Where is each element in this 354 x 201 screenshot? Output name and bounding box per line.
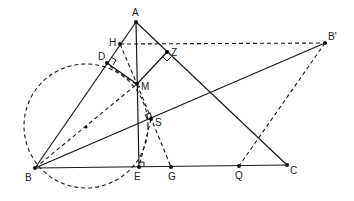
point-S xyxy=(149,117,153,121)
point-H xyxy=(118,42,122,46)
geometry-diagram: A B C B' H Z D M S E G Q xyxy=(0,0,354,201)
label-G: G xyxy=(168,171,176,182)
label-C: C xyxy=(290,165,297,176)
label-H: H xyxy=(109,37,116,48)
point-D xyxy=(105,61,109,65)
circle-center xyxy=(84,125,87,128)
point-G xyxy=(169,165,173,169)
point-E xyxy=(137,165,141,169)
segment-HB-prime xyxy=(120,43,325,44)
point-Z xyxy=(165,50,169,54)
point-B xyxy=(33,166,37,170)
point-Q xyxy=(237,164,241,168)
label-M: M xyxy=(141,81,149,92)
point-M xyxy=(135,82,139,86)
label-E: E xyxy=(134,171,141,182)
right-angle-Z xyxy=(163,57,171,61)
label-Q: Q xyxy=(235,170,243,181)
point-C xyxy=(285,163,289,167)
point-B-prime xyxy=(323,41,327,45)
label-S: S xyxy=(155,117,162,128)
segment-DM xyxy=(107,63,137,84)
label-D: D xyxy=(98,51,105,62)
label-A: A xyxy=(132,7,139,18)
segment-SE xyxy=(139,119,151,167)
label-B-prime: B' xyxy=(328,31,337,42)
segment-BC xyxy=(35,165,287,168)
label-Z: Z xyxy=(171,47,177,58)
point-A xyxy=(134,20,138,24)
right-angle-D xyxy=(111,57,116,65)
label-B: B xyxy=(25,172,32,183)
segment-MZ xyxy=(137,52,167,84)
